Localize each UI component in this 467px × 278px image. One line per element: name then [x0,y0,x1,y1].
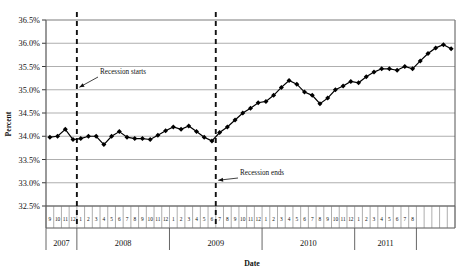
data-point-marker [171,124,176,129]
x-month-label: 10 [240,216,246,222]
y-tick-label: 34.5% [19,109,41,118]
plot-frame [46,20,455,228]
x-month-label: 8 [133,216,136,222]
data-point-marker [387,66,392,71]
x-month-label: 12 [163,216,169,222]
data-series-markers [47,42,453,147]
x-axis-year-labels-group: 20072008200920102011 [46,228,416,250]
data-point-marker [47,135,52,140]
x-month-label: 7 [311,216,314,222]
x-month-label: 2 [87,216,90,222]
data-point-marker [140,136,145,141]
x-month-label: 11 [248,216,253,222]
y-tick-label: 33.5% [19,156,41,165]
x-month-label: 9 [49,216,52,222]
x-month-label: 1 [79,216,82,222]
data-series-line [50,45,451,145]
x-month-label: 3 [95,216,98,222]
y-axis-title: Percent [4,111,13,136]
x-month-label: 3 [373,216,376,222]
x-month-label: 1 [357,216,360,222]
data-point-marker [402,64,407,69]
x-month-label: 8 [319,216,322,222]
x-month-label: 5 [203,216,206,222]
recession-starts-label: Recession starts [100,68,146,76]
chart-container: 32.5%33.0%33.5%34.0%34.5%35.0%35.5%36.0%… [0,0,467,278]
y-tick-label: 33.0% [19,179,41,188]
x-month-label: 7 [126,216,129,222]
x-month-label: 6 [211,216,214,222]
data-point-marker [132,136,137,141]
x-month-label: 9 [141,216,144,222]
x-month-label: 1 [172,216,175,222]
data-point-marker [86,134,91,139]
data-point-marker [148,137,153,142]
x-month-label: 9 [326,216,329,222]
x-month-label: 4 [103,216,106,222]
data-point-marker [395,68,400,73]
x-month-label: 10 [333,216,339,222]
x-axis-title: Date [244,259,260,268]
x-year-label: 2010 [300,239,317,248]
x-month-label: 2 [272,216,275,222]
x-month-label: 7 [403,216,406,222]
data-point-marker [441,42,446,47]
series-polyline [50,45,451,145]
recession-ends-label: Recession ends [240,169,284,177]
x-month-label: 7 [218,216,221,222]
y-tick-label: 36.5% [19,16,41,25]
y-tick-label: 36.0% [19,39,41,48]
recession-ends-arrow-head [218,178,223,182]
x-month-label: 5 [388,216,391,222]
x-month-label: 11 [341,216,346,222]
y-tick-label: 34.0% [19,132,41,141]
x-month-label: 10 [147,216,153,222]
x-month-label: 1 [265,216,268,222]
x-month-label: 4 [288,216,291,222]
data-point-marker [78,136,83,141]
data-point-marker [179,127,184,132]
x-year-label: 2008 [115,239,132,248]
x-month-label: 6 [303,216,306,222]
y-axis-tick-labels-group: 32.5%33.0%33.5%34.0%34.5%35.0%35.5%36.0%… [19,16,41,211]
x-month-label: 11 [155,216,160,222]
x-year-label: 2009 [207,239,224,248]
x-month-label: 3 [280,216,283,222]
chart-svg: 32.5%33.0%33.5%34.0%34.5%35.0%35.5%36.0%… [0,0,467,278]
gridlines-group [46,20,455,206]
x-month-label: 6 [118,216,121,222]
x-year-label: 2007 [53,239,70,248]
x-month-label: 8 [411,216,414,222]
x-month-label: 8 [226,216,229,222]
x-month-label: 4 [195,216,198,222]
y-tick-label: 35.5% [19,63,41,72]
x-month-label: 12 [348,216,354,222]
y-tick-label: 32.5% [19,202,41,211]
x-month-label: 9 [234,216,237,222]
annotations-group: Recession startsRecession ends [79,68,284,182]
x-month-label: 12 [70,216,76,222]
x-month-label: 5 [295,216,298,222]
x-month-label: 2 [365,216,368,222]
recession-marker-lines-group [77,12,216,228]
data-point-marker [379,66,384,71]
data-point-marker [449,46,454,51]
x-year-label: 2011 [377,239,393,248]
x-month-label: 6 [396,216,399,222]
x-month-label: 10 [55,216,61,222]
x-month-label: 2 [180,216,183,222]
x-month-label: 3 [187,216,190,222]
y-tick-label: 35.0% [19,86,41,95]
x-month-label: 12 [256,216,262,222]
x-month-label: 4 [380,216,383,222]
x-month-label: 11 [63,216,68,222]
x-month-label: 5 [110,216,113,222]
